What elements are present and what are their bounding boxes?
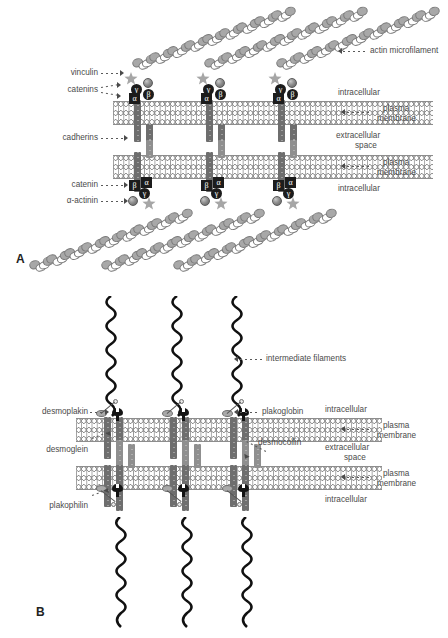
beta-catenin-low-1: β	[129, 180, 140, 191]
alpha-actinin-sphere-bottom-1	[128, 196, 138, 206]
alpha-actinin-sphere-top-1	[143, 78, 153, 88]
label-intermediate-filaments: intermediate filaments	[266, 354, 346, 364]
label-plasma-membrane-top-a-2: membrane	[377, 114, 416, 124]
alpha-catenin-1: α	[129, 93, 140, 104]
label-desmocollin: desmocollin	[258, 438, 301, 448]
intermediate-filament-lower-1	[110, 517, 132, 629]
plakoglobin-bottom-1	[112, 484, 123, 497]
figure-cell-junctions: A	[0, 0, 448, 638]
alpha-catenin-low-1: α	[141, 177, 152, 188]
plakophilin-node-bottom-3	[237, 502, 242, 507]
panel-b-letter: B	[36, 605, 45, 619]
actin-monomer	[325, 207, 338, 219]
plakoglobin-top-2	[178, 408, 189, 421]
label-alpha-actinin: α-actinin	[28, 196, 98, 206]
panel-a-adherens-junction: A	[0, 0, 448, 288]
alpha-actinin-sphere-bottom-3	[272, 196, 282, 206]
label-intracellular-bottom-b: intracellular	[325, 495, 367, 505]
alpha-catenin-low-2: α	[213, 177, 224, 188]
panel-a-letter: A	[16, 252, 25, 266]
label-plasma-membrane-top-b-2: membrane	[377, 431, 416, 441]
gamma-catenin-low-2: γ	[211, 188, 222, 199]
plakoglobin-bottom-3	[238, 484, 249, 497]
plakoglobin-top-3	[238, 408, 249, 421]
plakophilin-node-bottom-2	[177, 502, 182, 507]
alpha-catenin-low-3: α	[285, 177, 296, 188]
label-extracellular-space-b-2: space	[344, 453, 366, 463]
label-cadherins: cadherins	[30, 133, 98, 143]
label-extracellular-space-b-1: extracellular	[325, 443, 369, 453]
actin-monomer	[356, 5, 369, 17]
alpha-catenin-2: α	[201, 93, 212, 104]
label-plakophilin: plakophilin	[10, 501, 88, 511]
label-plasma-membrane-top-a-1: plasma	[383, 104, 409, 114]
label-plasma-membrane-bottom-a-1: plasma	[383, 158, 409, 168]
beta-catenin-1: β	[143, 89, 154, 100]
alpha-actinin-sphere-top-2	[215, 78, 225, 88]
actin-monomer	[428, 5, 441, 17]
plakoglobin-bottom-2	[178, 484, 189, 497]
alpha-actinin-sphere-bottom-2	[200, 196, 210, 206]
panel-b-desmosome: B	[0, 288, 448, 638]
label-catenins: catenins	[32, 85, 98, 95]
label-desmoplakin: desmoplakin	[12, 407, 88, 417]
gamma-catenin-low-1: γ	[139, 188, 150, 199]
label-plasma-membrane-bottom-a-2: membrane	[377, 168, 416, 178]
plakoglobin-top-1	[112, 408, 123, 421]
label-extracellular-space-a-1: extracellular	[336, 131, 380, 141]
label-plasma-membrane-bottom-b-2: membrane	[377, 479, 416, 489]
label-intracellular-top-b: intracellular	[325, 405, 367, 415]
label-plakoglobin: plakoglobin	[262, 407, 303, 417]
label-plasma-membrane-bottom-b-1: plasma	[383, 469, 409, 479]
label-extracellular-space-a-2: space	[355, 141, 377, 151]
alpha-actinin-sphere-top-3	[287, 78, 297, 88]
beta-catenin-3: β	[287, 89, 298, 100]
intermediate-filament-upper-1	[100, 296, 122, 418]
vinculin-star-low-1	[142, 197, 156, 211]
label-intracellular-top-a: intracellular	[338, 88, 380, 98]
label-plasma-membrane-top-b-1: plasma	[383, 421, 409, 431]
intermediate-filament-upper-2	[166, 296, 188, 418]
intermediate-filament-lower-3	[236, 517, 258, 629]
actin-monomer	[253, 207, 266, 219]
label-catenin: catenin	[34, 180, 98, 190]
actin-monomer	[284, 5, 297, 17]
beta-catenin-low-2: β	[201, 180, 212, 191]
beta-catenin-low-3: β	[273, 180, 284, 191]
label-vinculin: vinculin	[38, 68, 98, 78]
vinculin-star-low-3	[286, 197, 300, 211]
actin-monomer	[181, 207, 194, 219]
label-desmoglein: desmoglein	[12, 445, 88, 455]
plakophilin-node-bottom-1	[111, 502, 116, 507]
label-intracellular-bottom-a: intracellular	[338, 184, 380, 194]
label-actin-microfilament: actin microfilament	[370, 46, 438, 56]
gamma-catenin-low-3: γ	[283, 188, 294, 199]
vinculin-star-low-2	[214, 197, 228, 211]
beta-catenin-2: β	[215, 89, 226, 100]
alpha-catenin-3: α	[273, 93, 284, 104]
intermediate-filament-lower-2	[176, 517, 198, 629]
